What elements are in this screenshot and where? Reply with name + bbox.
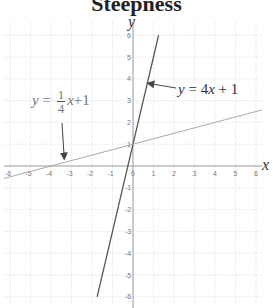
x-tick-label: -2 — [87, 170, 93, 177]
eq-y: y — [178, 81, 185, 97]
x-tick-label: 4 — [213, 170, 217, 177]
eq-equals: = — [39, 92, 55, 108]
x-tick-label: -6 — [5, 170, 11, 177]
y-tick-label: 3 — [127, 97, 131, 104]
fraction-numerator: 1 — [57, 88, 66, 102]
y-tick-label: -5 — [125, 272, 131, 279]
x-tick-label: 3 — [193, 170, 197, 177]
y-axis-label: y — [126, 13, 136, 31]
eq-coef: = 4 — [185, 81, 208, 97]
y-tick-label: 2 — [127, 119, 131, 126]
y-tick-label: 5 — [127, 54, 131, 61]
x-tick-label: 2 — [172, 170, 176, 177]
x-tick-label: 5 — [234, 170, 238, 177]
fraction-denominator: 4 — [57, 102, 66, 115]
x-tick-label: -4 — [46, 170, 52, 177]
y-tick-label: -3 — [125, 228, 131, 235]
x-tick-label: -1 — [108, 170, 114, 177]
y-tick-label: -4 — [125, 250, 131, 257]
y-tick-label: -6 — [125, 293, 131, 300]
y-tick-label: -2 — [125, 206, 131, 213]
x-tick-label: 6 — [254, 170, 258, 177]
y-tick-label: 6 — [127, 32, 131, 39]
y-tick-label: 4 — [127, 75, 131, 82]
shallow-line-equation: y = 14x+1 — [32, 88, 90, 115]
steep-arrow-icon — [147, 83, 176, 88]
x-tick-label: 0 — [131, 170, 135, 177]
x-tick-label: -3 — [67, 170, 73, 177]
y-tick-label: 1 — [127, 141, 131, 148]
eq-x: x — [67, 92, 74, 108]
x-axis-label: x — [261, 156, 269, 173]
y-tick-label: -1 — [125, 184, 131, 191]
fraction: 14 — [57, 88, 66, 115]
steep-line-equation: y = 4x + 1 — [178, 81, 238, 98]
eq-rest: + 1 — [215, 81, 238, 97]
eq-x: x — [208, 81, 215, 97]
x-tick-label: 1 — [152, 170, 156, 177]
eq-y: y — [32, 92, 39, 108]
eq-rest: +1 — [74, 92, 90, 108]
plot-area: -6-5-4-3-2-10123456-6-5-4-3-2-1123456xy — [0, 0, 273, 308]
shallow-arrow-icon — [62, 123, 64, 159]
